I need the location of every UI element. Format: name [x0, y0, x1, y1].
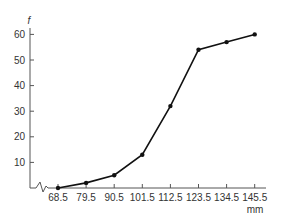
- x-axis-break-icon: [30, 182, 48, 192]
- y-tick-label: 30: [14, 106, 26, 117]
- data-point: [140, 153, 144, 157]
- data-point: [224, 40, 228, 44]
- y-tick-label: 60: [14, 29, 26, 40]
- y-ticks: 102030405060: [14, 29, 34, 168]
- y-axis-label: f: [28, 15, 32, 26]
- data-point: [112, 173, 116, 177]
- ogive-chart: 102030405060 68.579.590.5101.5112.5123.5…: [0, 0, 283, 224]
- ogive-line: [58, 34, 255, 188]
- y-tick-label: 20: [14, 131, 26, 142]
- data-point: [168, 104, 172, 108]
- data-points: [56, 32, 257, 190]
- data-point: [84, 181, 88, 185]
- x-tick-label: 101.5: [130, 192, 155, 203]
- x-tick-label: 79.5: [76, 192, 96, 203]
- x-tick-label: 134.5: [214, 192, 239, 203]
- y-tick-label: 10: [14, 157, 26, 168]
- x-tick-label: 112.5: [158, 192, 183, 203]
- x-tick-label: 123.5: [186, 192, 211, 203]
- y-tick-label: 50: [14, 55, 26, 66]
- data-point: [196, 48, 200, 52]
- data-point: [253, 32, 257, 36]
- x-tick-label: 68.5: [48, 192, 68, 203]
- x-tick-label: 145.5: [242, 192, 267, 203]
- x-tick-label: 90.5: [104, 192, 124, 203]
- x-axis-label: mm: [247, 204, 264, 215]
- y-tick-label: 40: [14, 80, 26, 91]
- x-ticks: 68.579.590.5101.5112.5123.5134.5145.5: [48, 184, 267, 203]
- data-point: [56, 186, 60, 190]
